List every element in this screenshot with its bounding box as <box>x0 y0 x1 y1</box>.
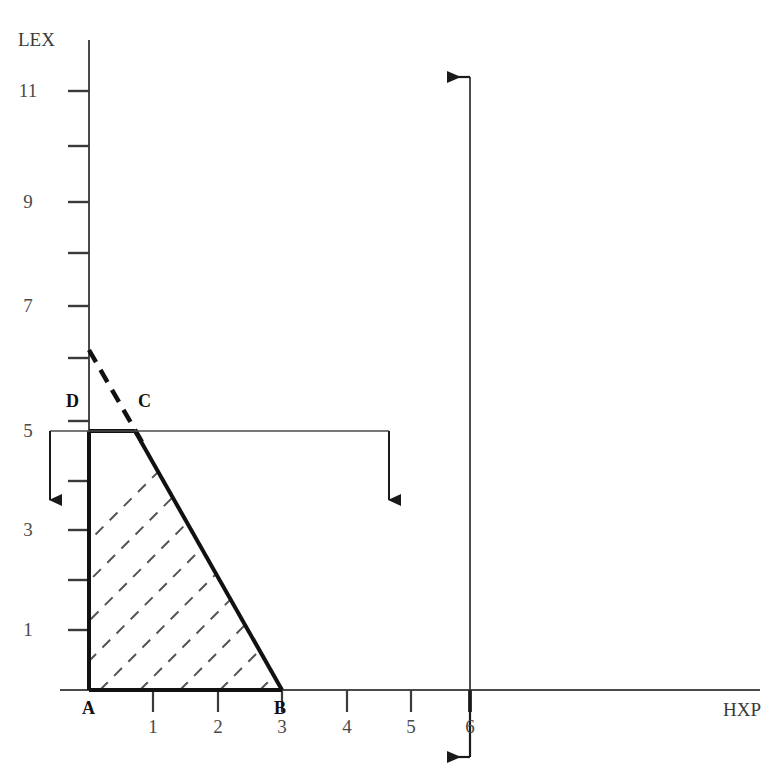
vertex-label-D: D <box>66 391 79 412</box>
x-tick-label-2: 2 <box>204 716 232 738</box>
vertex-label-C: C <box>138 391 151 412</box>
boundary-CB <box>135 431 282 690</box>
y-tick-label-11: 11 <box>10 80 46 102</box>
y-tick-label-7: 7 <box>10 295 46 317</box>
axis-lines <box>60 40 760 690</box>
feasible-region-boundary <box>89 431 282 690</box>
vertex-label-A: A <box>82 698 95 719</box>
y-tick-label-5: 5 <box>10 420 46 442</box>
x-axis-ticks <box>153 690 470 712</box>
dashed-constraint-line <box>89 350 142 442</box>
y-tick-label-1: 1 <box>10 619 46 641</box>
y-tick-label-3: 3 <box>10 519 46 541</box>
y-axis-ticks <box>68 91 89 630</box>
bound-line-hxp6 <box>448 77 470 757</box>
region-hatching <box>0 330 620 690</box>
plot-canvas <box>0 0 771 779</box>
x-tick-label-6: 6 <box>456 716 484 738</box>
x-tick-label-1: 1 <box>139 716 167 738</box>
linear-programming-figure: LEX HXP 11 9 7 5 3 1 1 2 3 4 5 6 A B C D <box>0 0 771 779</box>
y-tick-label-9: 9 <box>10 191 46 213</box>
x-tick-label-3: 3 <box>268 716 296 738</box>
x-tick-label-4: 4 <box>333 716 361 738</box>
vertex-label-B: B <box>274 698 286 719</box>
x-axis-title: HXP <box>723 699 761 721</box>
y-axis-title: LEX <box>18 29 55 51</box>
level-line-lex5 <box>50 431 389 500</box>
x-tick-label-5: 5 <box>397 716 425 738</box>
